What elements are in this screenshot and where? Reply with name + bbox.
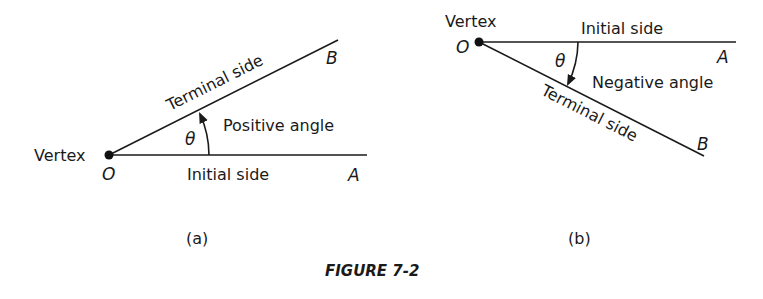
vertex-label: Vertex: [445, 12, 496, 31]
panel-b-caption: (b): [568, 229, 591, 248]
figure-canvas: Vertex O Initial side A Terminal side B …: [0, 0, 763, 299]
angle-description-label: Negative angle: [592, 73, 713, 92]
initial-side-label: Initial side: [581, 19, 663, 38]
terminal-side-label: Terminal side: [162, 51, 266, 116]
panel-a-caption: (a): [186, 229, 208, 248]
terminal-point-label: B: [697, 134, 709, 154]
counterclockwise-angle-arrow-icon: [200, 114, 209, 155]
angle-theta-label: θ: [185, 129, 196, 149]
vertex-label: Vertex: [34, 146, 85, 165]
panel-b-negative-angle: Vertex O Initial side A Terminal side B …: [445, 12, 736, 248]
terminal-point-label: B: [326, 48, 338, 68]
angle-theta-label: θ: [555, 51, 566, 71]
vertex-dot: [475, 38, 484, 47]
clockwise-angle-arrow-icon: [568, 42, 578, 84]
initial-point-label: A: [347, 165, 360, 185]
vertex-dot: [105, 151, 114, 160]
figure-caption: FIGURE 7-2: [325, 262, 419, 280]
vertex-point-label: O: [102, 164, 115, 184]
angle-description-label: Positive angle: [223, 116, 334, 135]
vertex-point-label: O: [456, 37, 469, 57]
initial-side-label: Initial side: [187, 165, 269, 184]
terminal-side-line: [479, 42, 704, 156]
panel-a-positive-angle: Vertex O Initial side A Terminal side B …: [34, 40, 367, 248]
initial-point-label: A: [716, 47, 729, 67]
terminal-side-line: [109, 40, 338, 155]
